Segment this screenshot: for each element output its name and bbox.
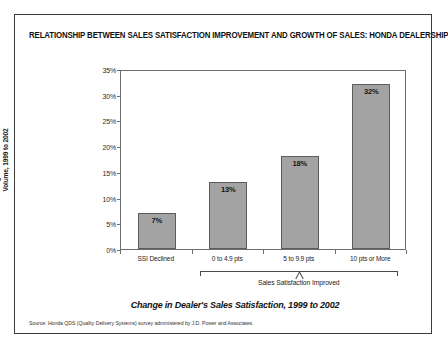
x-axis-tick-mark bbox=[406, 250, 407, 254]
x-axis-tick-mark bbox=[263, 250, 264, 254]
x-axis-category-label: SSI Declined bbox=[120, 255, 192, 262]
x-axis-tick-mark bbox=[335, 250, 336, 254]
bar-slot: 18% bbox=[264, 71, 336, 249]
x-axis-tick-mark bbox=[120, 250, 121, 254]
bar-slot: 7% bbox=[121, 71, 193, 249]
figure-panel: RELATIONSHIP BETWEEN SALES SATISFACTION … bbox=[14, 14, 432, 334]
x-axis-category-label: 10 pts or More bbox=[335, 255, 407, 262]
x-axis-category-label: 0 to 4.9 pts bbox=[192, 255, 264, 262]
bar-value-label: 18% bbox=[282, 159, 318, 168]
source-note: Source: Honda QDS (Quality Delivery Syst… bbox=[29, 320, 421, 326]
bracket-right-tick bbox=[397, 271, 398, 276]
y-axis-tick-label: 20% bbox=[89, 144, 116, 151]
group-bracket-label: Sales Satisfaction Improved bbox=[192, 279, 407, 286]
bar-slot: 13% bbox=[193, 71, 265, 249]
x-axis-category-label: 5 to 9.9 pts bbox=[263, 255, 335, 262]
bar-value-label: 32% bbox=[353, 87, 389, 96]
bracket-left-tick bbox=[200, 271, 201, 276]
x-axis-labels: SSI Declined0 to 4.9 pts5 to 9.9 pts10 p… bbox=[120, 255, 406, 267]
bar-value-label: 7% bbox=[139, 216, 175, 225]
bar-value-label: 13% bbox=[210, 185, 246, 194]
bar-slot: 32% bbox=[336, 71, 408, 249]
bar[interactable]: 32% bbox=[352, 84, 390, 249]
y-axis: 0%5%10%15%20%25%30%35% bbox=[93, 70, 120, 250]
y-axis-tick-label: 35% bbox=[89, 67, 116, 74]
y-axis-title: Change in Dealer's Sales Volume, 1999 to… bbox=[0, 70, 12, 250]
y-axis-tick-label: 0% bbox=[89, 247, 116, 254]
y-axis-tick-label: 5% bbox=[89, 221, 116, 228]
bar[interactable]: 18% bbox=[281, 156, 319, 249]
chart-title: RELATIONSHIP BETWEEN SALES SATISFACTION … bbox=[29, 31, 405, 41]
x-axis-title: Change in Dealer's Sales Satisfaction, 1… bbox=[55, 300, 415, 310]
y-axis-tick-label: 15% bbox=[89, 169, 116, 176]
plot-area: 7%13%18%32% bbox=[120, 70, 406, 250]
bar[interactable]: 13% bbox=[209, 182, 247, 249]
y-axis-title-line-2: Volume, 1999 to 2002 bbox=[1, 128, 10, 191]
y-axis-tick-label: 10% bbox=[89, 195, 116, 202]
y-axis-tick-label: 30% bbox=[89, 92, 116, 99]
bar[interactable]: 7% bbox=[138, 213, 176, 249]
bars-layer: 7%13%18%32% bbox=[121, 71, 405, 249]
x-axis-tick-mark bbox=[192, 250, 193, 254]
y-axis-tick-label: 25% bbox=[89, 118, 116, 125]
